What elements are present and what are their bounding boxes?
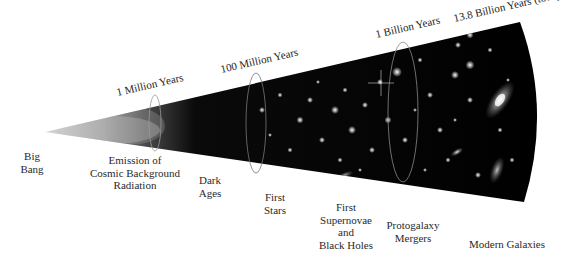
big-bang-label: Big Bang: [12, 150, 52, 175]
epoch-cmb-emission: Emission of Cosmic Background Radiation: [80, 154, 190, 192]
epoch-first-supernovae: First Supernovae and Black Holes: [309, 201, 383, 251]
epoch-modern-galaxies: Modern Galaxies: [462, 238, 552, 251]
universe-timeline-diagram: Big Bang 1 Million Years 100 Million Yea…: [0, 0, 564, 258]
expansion-cone: [0, 0, 564, 258]
epoch-dark-ages: Dark Ages: [188, 174, 232, 199]
epoch-first-stars: First Stars: [255, 191, 295, 216]
epoch-protogalaxy-mergers: Protogalaxy Mergers: [381, 219, 445, 244]
